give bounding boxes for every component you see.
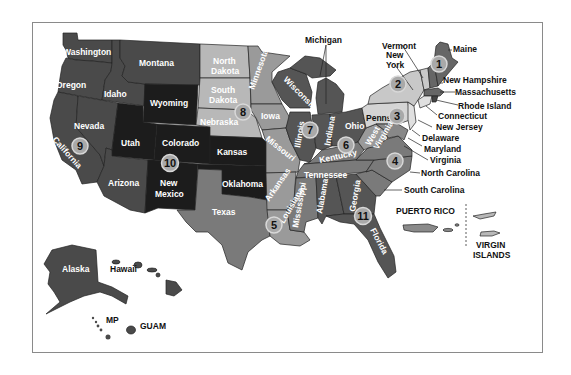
label-north-carolina: North Carolina — [421, 168, 480, 178]
svg-text:8: 8 — [240, 106, 246, 118]
label-maryland: Maryland — [424, 144, 461, 154]
label-nebraska: Nebraska — [200, 117, 239, 127]
svg-text:4: 4 — [392, 155, 399, 167]
label-oklahoma: Oklahoma — [222, 179, 263, 189]
svg-text:3: 3 — [394, 110, 400, 122]
label-nevada: Nevada — [74, 121, 105, 131]
label-hawaii: Hawaii — [110, 264, 137, 274]
state-michigan-lower[interactable] — [316, 78, 344, 114]
label-delaware: Delaware — [422, 133, 460, 143]
territory-virgin-islands[interactable] — [473, 212, 496, 219]
label-michigan: Michigan — [305, 35, 342, 45]
svg-text:6: 6 — [343, 139, 349, 151]
territory-guam[interactable] — [127, 326, 136, 334]
label-connecticut: Connecticut — [438, 111, 487, 121]
label-montana: Montana — [139, 58, 174, 68]
svg-text:10: 10 — [164, 157, 176, 169]
state-new-jersey[interactable] — [408, 102, 416, 130]
label-washington: Washington — [63, 47, 111, 57]
svg-text:5: 5 — [271, 219, 277, 231]
region-badge-1[interactable]: 1 — [431, 56, 447, 72]
state-alaska[interactable] — [44, 245, 128, 314]
label-puerto-rico: PUERTO RICO — [396, 206, 455, 216]
label-wyoming: Wyoming — [150, 98, 188, 108]
svg-text:1: 1 — [436, 58, 442, 70]
label-massachusetts: Massachusetts — [455, 87, 516, 97]
label-south-carolina: South Carolina — [404, 185, 465, 195]
label-south-dakota-1: South — [211, 85, 235, 95]
svg-text:11: 11 — [357, 210, 369, 222]
region-badge-11[interactable]: 11 — [355, 208, 372, 225]
svg-text:9: 9 — [77, 140, 83, 152]
label-oregon: Oregon — [56, 80, 86, 90]
label-guam: GUAM — [140, 321, 166, 331]
label-tennessee: Tennessee — [304, 170, 348, 180]
label-new-mexico-2: Mexico — [155, 189, 184, 199]
region-badge-3[interactable]: 3 — [389, 108, 405, 124]
label-north-dakota-2: Dakota — [211, 66, 240, 76]
territory-puerto-rico[interactable] — [403, 224, 438, 232]
label-rhode-island: Rhode Island — [458, 101, 511, 111]
state-rhode-island[interactable] — [432, 96, 438, 102]
svg-text:2: 2 — [395, 78, 401, 90]
label-mp: MP — [106, 315, 119, 325]
label-iowa: Iowa — [261, 111, 280, 121]
label-south-dakota-2: Dakota — [209, 95, 238, 105]
label-virgin-islands-2: ISLANDS — [473, 250, 511, 260]
svg-text:7: 7 — [307, 124, 313, 136]
region-badge-7[interactable]: 7 — [302, 122, 318, 138]
label-new-york-2: York — [386, 60, 405, 70]
region-badge-10[interactable]: 10 — [162, 155, 179, 172]
label-pennsylvania: Penns — [366, 113, 392, 123]
label-new-hampshire: New Hampshire — [443, 75, 507, 85]
label-new-york-1: New — [386, 50, 404, 60]
label-arizona: Arizona — [108, 178, 139, 188]
label-virginia: Virginia — [430, 155, 461, 165]
us-regions-map: Washington Oregon Idaho Montana Wyoming … — [0, 0, 571, 375]
label-north-dakota-1: North — [213, 56, 236, 66]
label-maine: Maine — [453, 44, 477, 54]
label-virgin-islands-1: VIRGIN — [476, 240, 505, 250]
region-badge-4[interactable]: 4 — [387, 153, 403, 169]
label-vermont: Vermont — [382, 41, 416, 51]
label-ohio: Ohio — [345, 121, 364, 131]
state-connecticut[interactable] — [418, 96, 432, 108]
region-badge-6[interactable]: 6 — [338, 137, 354, 153]
label-alaska: Alaska — [62, 264, 90, 274]
label-texas: Texas — [212, 207, 236, 217]
region-badge-8[interactable]: 8 — [235, 104, 251, 120]
label-new-mexico-1: New — [160, 178, 178, 188]
label-idaho: Idaho — [104, 89, 127, 99]
label-utah: Utah — [121, 138, 140, 148]
region-badge-5[interactable]: 5 — [266, 217, 282, 233]
label-colorado: Colorado — [162, 138, 199, 148]
label-kansas: Kansas — [217, 147, 248, 157]
label-new-jersey: New Jersey — [436, 122, 483, 132]
region-badge-9[interactable]: 9 — [72, 138, 88, 154]
region-badge-2[interactable]: 2 — [390, 76, 406, 92]
